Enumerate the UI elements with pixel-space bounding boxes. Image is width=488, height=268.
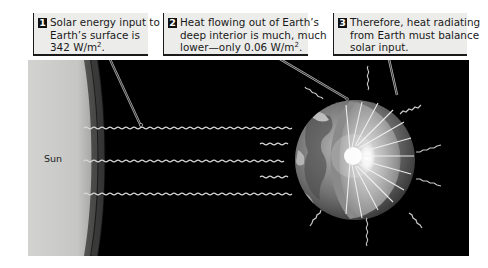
callout-1-line-3: 342 W/m [50,41,97,53]
step-number-1: 1 [38,18,47,28]
callout-1-line-2: Earth’s surface is [38,29,144,42]
callout-3-line-3: solar input. [338,41,463,54]
callout-2-line-1: Heat flowing out of Earth’s [180,16,319,28]
callout-1: 1Solar energy input to Earth’s surface i… [33,13,148,56]
earth-cutaway [295,100,415,220]
period: . [299,41,302,53]
callout-1-line-1: Solar energy input to [50,16,160,28]
period: . [102,41,105,53]
callout-2-line-3: lower—only 0.06 W/m [180,41,294,53]
step-number-2: 2 [168,18,177,28]
step-number-3: 3 [338,18,347,28]
callout-3-line-1: Therefore, heat radiating [350,16,480,28]
sun-label: Sun [44,153,62,164]
space-panel [28,60,469,256]
callout-3: 3Therefore, heat radiating from Earth mu… [333,13,467,56]
diagram-artwork [28,60,469,256]
callout-2: 2Heat flowing out of Earth’s deep interi… [163,13,308,56]
callout-3-line-2: from Earth must balance [338,29,463,42]
callout-2-line-2: deep interior is much, much [168,29,304,42]
